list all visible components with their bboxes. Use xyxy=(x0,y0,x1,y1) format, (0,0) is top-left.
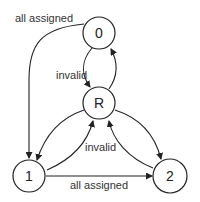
state-node-2: 2 xyxy=(153,159,187,193)
state-label: 1 xyxy=(25,168,33,184)
edge-R-to-2 xyxy=(115,110,161,159)
edge-label-1-2: all assigned xyxy=(70,179,128,191)
edge-R-to-1 xyxy=(37,110,84,160)
state-label: 0 xyxy=(95,25,103,41)
state-node-0: 0 xyxy=(83,17,115,49)
edge-0-to-1 xyxy=(29,24,84,158)
state-label: R xyxy=(94,95,104,111)
state-diagram: all assigned invalid invalid all assigne… xyxy=(0,0,200,202)
state-node-R: R xyxy=(83,87,115,119)
state-node-1: 1 xyxy=(13,160,45,192)
edge-0-to-R xyxy=(84,48,93,87)
edge-label-0-R: invalid xyxy=(56,69,87,81)
edge-label-1-R: invalid xyxy=(85,141,116,153)
state-label: 2 xyxy=(166,168,174,184)
edge-label-0-1: all assigned xyxy=(15,12,73,24)
edge-R-to-0 xyxy=(109,49,116,89)
